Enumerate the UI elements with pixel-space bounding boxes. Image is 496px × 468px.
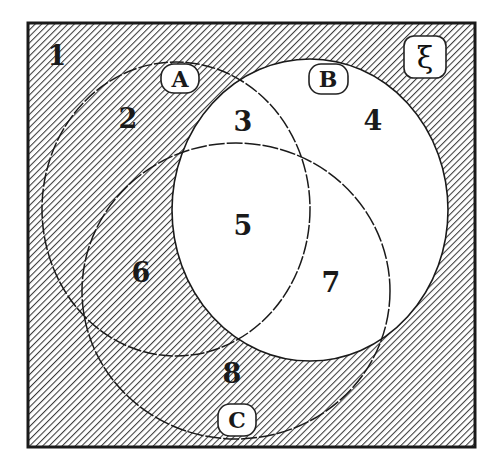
universe-symbol: ξ <box>417 40 434 75</box>
set-b-label-text: B <box>319 66 338 92</box>
set-c-label-text: C <box>228 407 246 433</box>
region-5-number: 5 <box>234 210 253 241</box>
region-3-number: 3 <box>234 106 253 137</box>
region-8-number: 8 <box>223 358 242 389</box>
region-1-number: 1 <box>48 40 67 71</box>
set-a-label: A <box>161 64 199 93</box>
region-2-number: 2 <box>119 103 138 134</box>
region-4-number: 4 <box>364 105 383 136</box>
set-c-label: C <box>218 404 256 436</box>
venn-diagram: ξ A B C 1 2 3 4 5 6 7 8 <box>0 0 496 468</box>
region-6-number: 6 <box>132 257 151 288</box>
set-b-label: B <box>309 64 348 94</box>
region-7-number: 7 <box>322 267 341 298</box>
set-a-label-text: A <box>170 66 189 92</box>
universe-label: ξ <box>404 36 446 78</box>
